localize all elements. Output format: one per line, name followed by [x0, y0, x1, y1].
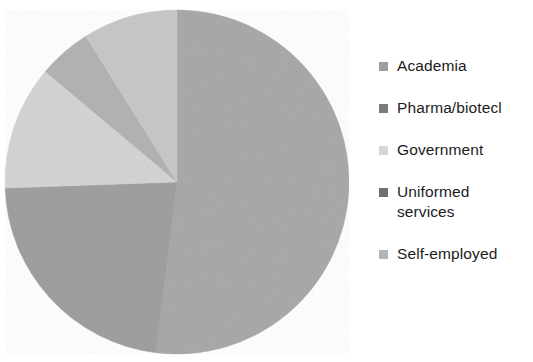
legend-label-uniformed-services-line2: services: [397, 203, 455, 220]
pie-grain-overlay: [5, 10, 349, 354]
legend-label-uniformed-services: Uniformedservices: [397, 182, 517, 222]
legend-label-pharma-biotech: Pharma/biotecl: [397, 98, 502, 118]
legend-swatch-pharma-biotech: [379, 104, 388, 113]
pie-chart-svg: [0, 0, 362, 362]
legend-swatch-uniformed-services: [379, 188, 388, 197]
legend-swatch-self-employed: [379, 250, 388, 259]
legend-item-uniformed-services: Uniformedservices: [379, 182, 533, 222]
pie-chart-figure: Academia Pharma/biotecl Government Unifo…: [0, 0, 533, 362]
pie-chart-area: [0, 0, 362, 362]
legend-label-government: Government: [397, 140, 483, 160]
legend-swatch-academia: [379, 62, 388, 71]
legend-label-uniformed-services-line1: Uniformed: [397, 183, 469, 200]
legend-label-self-employed: Self-employed: [397, 244, 497, 264]
legend-item-pharma-biotech: Pharma/biotecl: [379, 98, 533, 118]
legend-item-academia: Academia: [379, 56, 533, 76]
legend-item-government: Government: [379, 140, 533, 160]
chart-legend: Academia Pharma/biotecl Government Unifo…: [379, 56, 533, 264]
legend-item-self-employed: Self-employed: [379, 244, 533, 264]
legend-label-academia: Academia: [397, 56, 467, 76]
legend-swatch-government: [379, 146, 388, 155]
